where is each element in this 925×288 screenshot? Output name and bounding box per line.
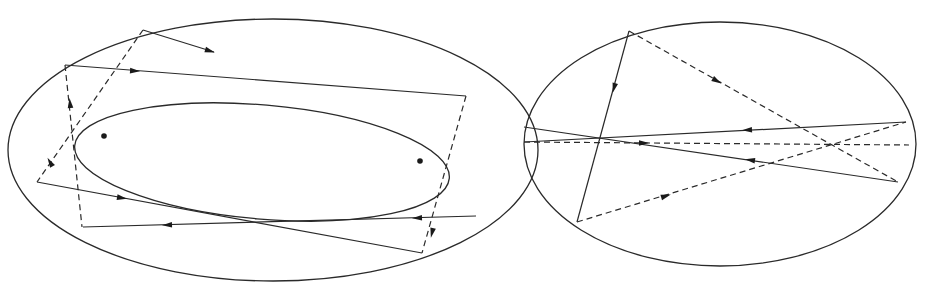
focus-point xyxy=(101,133,107,139)
direction-arrow-icon xyxy=(742,127,752,133)
direction-arrow-icon xyxy=(711,76,722,86)
trajectory-segment-dashed xyxy=(37,30,143,182)
direction-arrow-icon xyxy=(162,222,172,228)
left-ellipse-billiard-panel xyxy=(8,19,538,281)
trajectory-segment-solid xyxy=(143,30,214,52)
trajectory-segment-solid xyxy=(65,65,466,96)
direction-arrow-icon xyxy=(610,82,618,93)
trajectory-segment-dashed xyxy=(629,31,898,182)
direction-arrow-icon xyxy=(130,68,140,74)
direction-arrow-icon xyxy=(428,227,436,238)
direction-arrow-icon xyxy=(45,156,55,167)
outer-ellipse-boundary xyxy=(8,19,538,281)
right-ellipse-billiard-panel xyxy=(524,22,916,266)
direction-arrow-icon xyxy=(67,98,74,109)
trajectory-segment-dashed xyxy=(65,65,82,227)
billiard-caustics-diagram xyxy=(0,0,925,288)
inner-caustic-ellipse xyxy=(70,89,455,235)
trajectory-segment-solid xyxy=(577,31,629,222)
direction-arrow-icon xyxy=(204,47,215,55)
direction-arrow-icon xyxy=(660,192,671,200)
trajectory-segment-dashed xyxy=(422,96,466,253)
trajectory-segment-solid xyxy=(524,127,898,182)
trajectory-segment-dashed xyxy=(524,142,909,145)
focus-point xyxy=(417,158,423,164)
direction-arrow-icon xyxy=(412,215,422,221)
